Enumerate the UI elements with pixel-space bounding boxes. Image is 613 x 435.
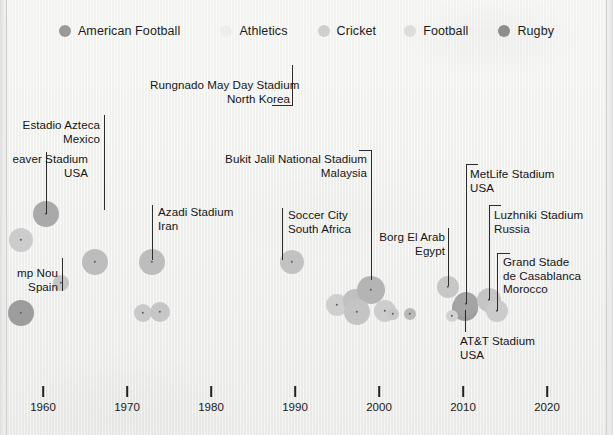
axis-tick-label: 1990 [282, 401, 308, 413]
axis-tick [294, 386, 296, 397]
axis-tick-label: 1960 [30, 401, 56, 413]
axis-tick [126, 386, 128, 397]
axis-tick [210, 386, 212, 397]
axis-tick [42, 386, 44, 397]
axis-tick-label: 1970 [114, 401, 140, 413]
chart-canvas: American FootballAthleticsCricketFootbal… [0, 0, 613, 435]
axis-tick [546, 386, 548, 397]
axis-tick-label: 1980 [198, 401, 224, 413]
axis-tick [378, 386, 380, 397]
axis-tick-label: 2000 [366, 401, 392, 413]
axis-tick-label: 2020 [534, 401, 560, 413]
axis-tick-label: 2010 [450, 401, 476, 413]
x-axis: 1960197019801990200020102020 [0, 0, 613, 435]
axis-tick [462, 386, 464, 397]
